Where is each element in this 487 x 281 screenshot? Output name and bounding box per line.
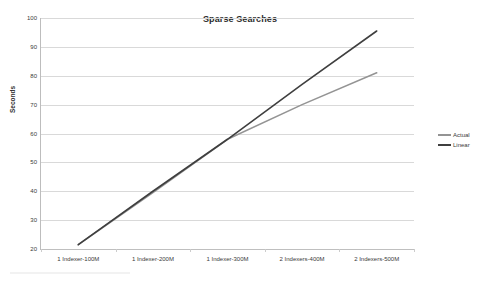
y-axis-tick-label: 60	[7, 131, 37, 137]
series-line-actual	[78, 73, 376, 245]
x-axis-tick-labels: 1 Indexer-100M1 Indexer-200M1 Indexer-30…	[41, 256, 414, 270]
gridline-20	[41, 249, 414, 250]
legend-line-swatch	[438, 144, 451, 146]
series-lines	[41, 18, 414, 249]
x-axis-tick	[265, 249, 266, 252]
legend-label: Linear	[453, 142, 470, 148]
legend-line-swatch	[438, 134, 451, 136]
y-axis-tick-label: 90	[7, 44, 37, 50]
legend-label: Actual	[453, 132, 470, 138]
legend-entry-actual[interactable]: Actual	[438, 130, 486, 140]
y-axis-tick-label: 20	[7, 246, 37, 252]
x-axis-tick-label: 2 Indexers-400M	[280, 256, 325, 262]
x-axis-tick	[414, 249, 415, 252]
x-axis-tick	[339, 249, 340, 252]
x-axis-tick-label: 1 Indexer-100M	[57, 256, 99, 262]
scan-artifact	[10, 272, 130, 274]
x-axis-tick	[190, 249, 191, 252]
series-line-linear	[78, 31, 376, 245]
y-axis-tick-label: 70	[7, 102, 37, 108]
x-axis-tick-label: 1 Indexer-300M	[206, 256, 248, 262]
y-axis-tick-labels: 2030405060708090100	[4, 18, 37, 249]
y-axis-tick-label: 50	[7, 159, 37, 165]
x-axis-tick-label: 1 Indexer-200M	[132, 256, 174, 262]
x-axis-tick	[116, 249, 117, 252]
y-axis-tick-label: 80	[7, 73, 37, 79]
y-axis-tick-label: 40	[7, 188, 37, 194]
chart-container: Sparse Searches Seconds 2030405060708090…	[0, 0, 487, 281]
chart-legend: ActualLinear	[438, 130, 486, 150]
plot-area	[41, 18, 414, 249]
x-axis-tick	[41, 249, 42, 252]
x-axis-tick-label: 2 Indexers-500M	[354, 256, 399, 262]
y-axis-tick-label: 30	[7, 217, 37, 223]
legend-entry-linear[interactable]: Linear	[438, 140, 486, 150]
y-axis-tick-label: 100	[7, 15, 37, 21]
